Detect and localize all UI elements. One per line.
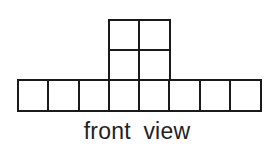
cube-face-square: [108, 19, 141, 52]
cube-face-square: [199, 79, 232, 112]
cube-face-square: [229, 79, 262, 112]
cube-face-square: [138, 49, 171, 82]
diagram-caption: front view: [0, 118, 274, 145]
cube-face-square: [138, 19, 171, 52]
cube-face-square: [47, 79, 80, 112]
cube-face-square: [78, 79, 111, 112]
cube-face-square: [138, 79, 171, 112]
cube-face-square: [17, 79, 50, 112]
cube-face-square: [168, 79, 201, 112]
cube-face-square: [108, 79, 141, 112]
cube-face-square: [108, 49, 141, 82]
